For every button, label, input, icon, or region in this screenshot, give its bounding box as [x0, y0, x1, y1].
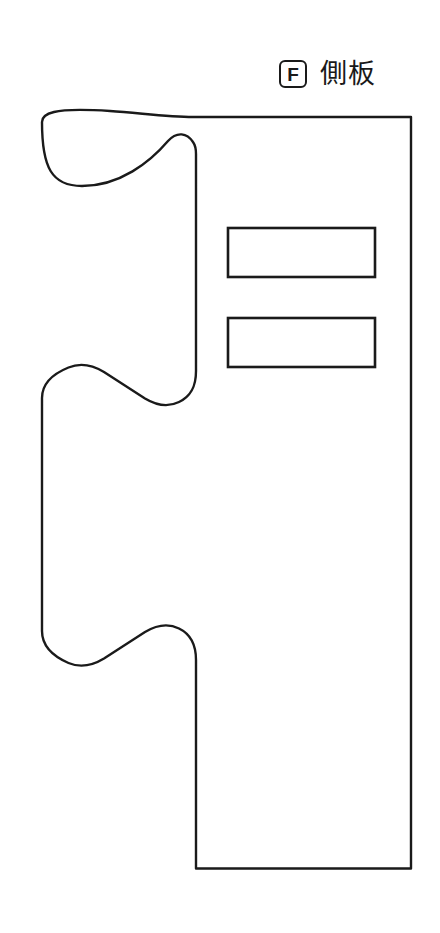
- side-panel-outline-svg: [0, 0, 440, 933]
- part-drawing-area: [0, 0, 440, 933]
- upper-rectangular-slot: [228, 228, 375, 277]
- lower-rectangular-slot: [228, 318, 375, 367]
- drawing-page: F 側板: [0, 0, 440, 933]
- side-panel-outline-path: [42, 110, 411, 869]
